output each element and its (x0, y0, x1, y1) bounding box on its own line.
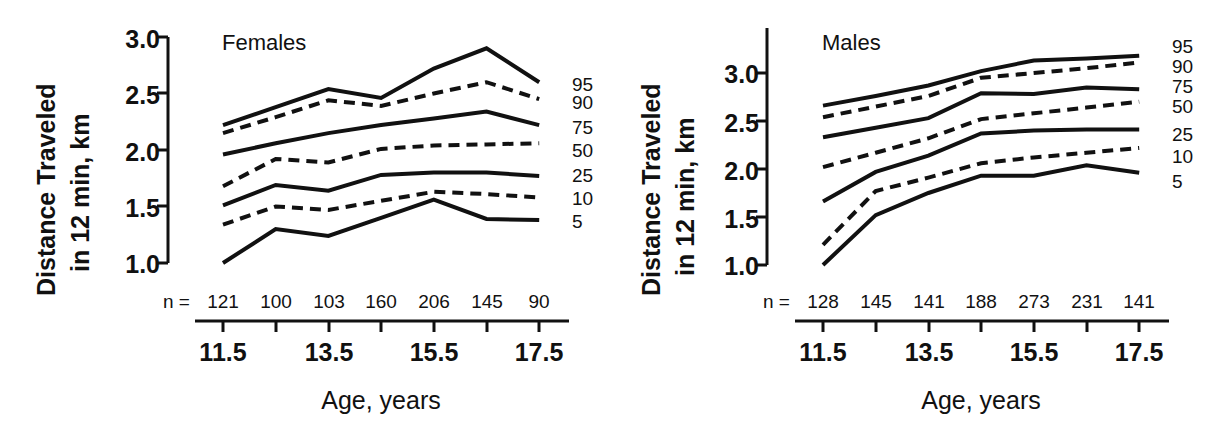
plot-area-females (0, 0, 608, 438)
n-value-6: 90 (509, 291, 569, 313)
pct-label-10: 10 (572, 188, 593, 210)
x-tick-11.5: 11.5 (783, 338, 863, 367)
n-value-5: 231 (1057, 291, 1117, 313)
n-value-6: 141 (1109, 291, 1169, 313)
pct-label-10: 10 (1172, 146, 1193, 168)
y-axis-females (157, 37, 168, 263)
percentile-line-10 (823, 148, 1139, 245)
x-tick-15.5: 15.5 (394, 338, 474, 367)
n-prefix-males: n = (763, 291, 790, 313)
x-tick-11.5: 11.5 (183, 338, 263, 367)
percentile-curves-females (223, 48, 539, 263)
panel-males: Distance Traveled in 12 min, km 3.0 2.5 … (607, 0, 1215, 438)
percentile-curves-males (823, 56, 1139, 265)
n-value-2: 141 (899, 291, 959, 313)
x-tick-15.5: 15.5 (994, 338, 1074, 367)
pct-label-5: 5 (572, 211, 583, 233)
pct-label-5: 5 (1172, 171, 1183, 193)
figure-two-panel-percentile-chart: Distance Traveled in 12 min, km 3.0 2.5 … (0, 0, 1215, 438)
n-value-4: 273 (1004, 291, 1064, 313)
x-tick-17.5: 17.5 (499, 338, 579, 367)
n-value-2: 103 (299, 291, 359, 313)
x-tick-13.5: 13.5 (889, 338, 969, 367)
n-value-0: 121 (193, 291, 253, 313)
pct-label-90: 90 (1172, 56, 1193, 78)
pct-label-95: 95 (1172, 36, 1193, 58)
x-axis-males (795, 321, 1169, 332)
n-value-3: 188 (951, 291, 1011, 313)
pct-label-90: 90 (572, 92, 593, 114)
percentile-line-50 (223, 143, 539, 186)
x-axis-title-females: Age, years (261, 386, 501, 415)
percentile-line-5 (823, 165, 1139, 265)
x-axis-females (195, 321, 569, 332)
x-tick-17.5: 17.5 (1099, 338, 1179, 367)
n-value-3: 160 (351, 291, 411, 313)
pct-label-75: 75 (1172, 76, 1193, 98)
n-value-1: 145 (846, 291, 906, 313)
pct-label-25: 25 (1172, 124, 1193, 146)
pct-label-50: 50 (1172, 96, 1193, 118)
n-value-0: 128 (793, 291, 853, 313)
pct-label-75: 75 (572, 117, 593, 139)
pct-label-25: 25 (572, 165, 593, 187)
x-tick-13.5: 13.5 (289, 338, 369, 367)
n-value-4: 206 (404, 291, 464, 313)
pct-label-50: 50 (572, 140, 593, 162)
n-value-5: 145 (457, 291, 517, 313)
percentile-line-95 (823, 56, 1139, 106)
n-value-1: 100 (246, 291, 306, 313)
percentile-line-5 (223, 200, 539, 263)
x-axis-title-males: Age, years (861, 386, 1101, 415)
plot-area-males (607, 0, 1215, 438)
y-axis-males (756, 28, 767, 265)
n-prefix-females: n = (163, 291, 190, 313)
panel-females: Distance Traveled in 12 min, km 3.0 2.5 … (0, 0, 608, 438)
